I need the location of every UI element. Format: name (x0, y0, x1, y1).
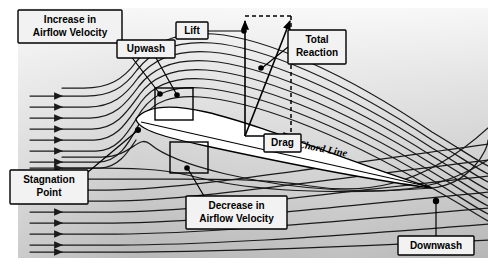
callout-increase-velocity-line1: Increase in (44, 14, 96, 25)
callout-downwash[interactable]: Downwash (398, 236, 474, 255)
anchor-increase-velocity (157, 91, 163, 97)
anchor-downwash (433, 198, 439, 204)
callout-stagnation-point-line2: Point (37, 187, 63, 198)
callout-increase-velocity[interactable]: Increase in Airflow Velocity (18, 10, 122, 43)
airfoil-diagram-svg: Chord Line Increase in Airflow Velocity (0, 0, 500, 269)
callout-decrease-velocity-line2: Airflow Velocity (199, 213, 274, 224)
callout-decrease-velocity-line1: Decrease in (208, 200, 264, 211)
callout-upwash-label: Upwash (127, 43, 165, 54)
callout-total-reaction-line2: Reaction (296, 47, 338, 58)
callout-lift-label: Lift (184, 25, 200, 36)
callout-upwash[interactable]: Upwash (117, 40, 175, 58)
callout-increase-velocity-line2: Airflow Velocity (33, 27, 108, 38)
anchor-lift (241, 28, 247, 34)
anchor-upwash (174, 92, 180, 98)
callout-downwash-label: Downwash (410, 240, 462, 251)
anchor-total-reaction (258, 65, 264, 71)
anchor-decrease-velocity (184, 165, 190, 171)
callout-lift[interactable]: Lift (176, 22, 208, 39)
callout-total-reaction[interactable]: Total Reaction (288, 30, 346, 64)
callout-decrease-velocity[interactable]: Decrease in Airflow Velocity (186, 196, 287, 229)
callout-drag[interactable]: Drag (264, 134, 301, 152)
callout-drag-label: Drag (271, 137, 294, 148)
callout-total-reaction-line1: Total (305, 34, 328, 45)
airfoil-diagram-root: Chord Line Increase in Airflow Velocity (0, 0, 500, 269)
anchor-stagnation-point (135, 127, 141, 133)
callout-stagnation-point[interactable]: Stagnation Point (10, 170, 88, 204)
callout-stagnation-point-line1: Stagnation (23, 174, 75, 185)
